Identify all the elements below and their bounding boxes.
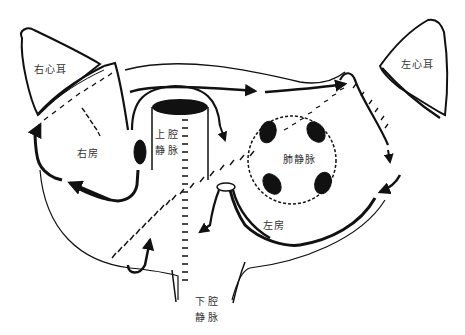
label-svc-line1: 上腔: [155, 127, 181, 142]
label-left-atrium: 左房: [263, 220, 285, 232]
label-left-auricle: 左心耳: [401, 59, 434, 71]
suture-left: [284, 84, 388, 130]
heart-anastomosis-diagram: [0, 0, 465, 335]
septal-remnant: [200, 183, 270, 238]
label-ivc-line1: 下腔: [195, 294, 221, 309]
outer-outline: [40, 64, 385, 300]
label-right-atrium: 右房: [77, 148, 99, 160]
suture-septal: [112, 151, 254, 258]
label-svc-line2: 静脉: [155, 143, 181, 158]
suture-vertical: [182, 120, 188, 280]
label-ivc-line2: 静脉: [195, 310, 221, 325]
label-pulmonary-veins: 肺静脉: [283, 154, 316, 166]
label-right-auricle: 右心耳: [34, 64, 67, 76]
top-flow-arrows: [130, 84, 345, 92]
